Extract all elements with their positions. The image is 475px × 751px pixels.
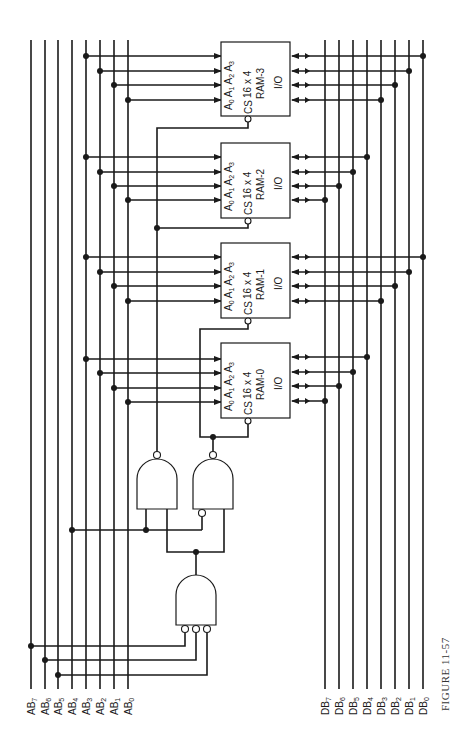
svg-text:I/O: I/O <box>273 276 284 290</box>
svg-text:CS: CS <box>243 201 254 215</box>
svg-text:RAM-2: RAM-2 <box>255 168 266 200</box>
svg-text:AB0: AB0 <box>123 698 135 715</box>
svg-text:AB1: AB1 <box>109 698 121 715</box>
svg-text:DB1: DB1 <box>404 697 416 715</box>
figure-caption: FIGURE 11-57 <box>439 637 451 711</box>
svg-text:I/O: I/O <box>273 376 284 390</box>
svg-text:16 x 4: 16 x 4 <box>242 271 253 299</box>
memory-decoder-diagram: AB7 AB6 AB5 AB4 AB3 AB2 AB1 AB0 DB7 DB6 … <box>0 0 475 751</box>
svg-text:DB7: DB7 <box>320 697 332 715</box>
address-bus-labels: AB7 AB6 AB5 AB4 AB3 AB2 AB1 AB0 <box>26 698 135 715</box>
svg-text:CS: CS <box>243 401 254 415</box>
svg-text:CS: CS <box>243 301 254 315</box>
ram-2-labels: A0 A1 A2 A3 CS 16 x 4 RAM-2 I/O <box>223 162 284 215</box>
svg-text:DB0: DB0 <box>418 697 430 715</box>
svg-text:AB2: AB2 <box>95 698 107 715</box>
svg-text:DB3: DB3 <box>376 697 388 715</box>
svg-text:16 x 4: 16 x 4 <box>242 371 253 399</box>
svg-text:A0 A1 A2 A3: A0 A1 A2 A3 <box>223 61 235 110</box>
svg-text:DB4: DB4 <box>362 697 374 715</box>
labels-layer: AB7 AB6 AB5 AB4 AB3 AB2 AB1 AB0 DB7 DB6 … <box>0 0 475 751</box>
svg-text:A0 A1 A2 A3: A0 A1 A2 A3 <box>223 362 235 411</box>
svg-text:AB7: AB7 <box>26 698 38 715</box>
svg-text:AB3: AB3 <box>81 698 93 715</box>
svg-text:AB6: AB6 <box>40 698 52 715</box>
svg-text:AB5: AB5 <box>53 698 65 715</box>
svg-text:A0 A1 A2 A3: A0 A1 A2 A3 <box>223 262 235 311</box>
svg-text:I/O: I/O <box>273 176 284 190</box>
ram-0-labels: A0 A1 A2 A3 CS 16 x 4 RAM-0 I/O <box>223 362 284 415</box>
svg-text:CS: CS <box>243 100 254 114</box>
svg-text:A0 A1 A2 A3: A0 A1 A2 A3 <box>223 162 235 211</box>
svg-text:DB2: DB2 <box>390 697 402 715</box>
svg-text:RAM-1: RAM-1 <box>255 268 266 300</box>
svg-text:AB4: AB4 <box>67 698 79 715</box>
svg-text:DB5: DB5 <box>348 697 360 715</box>
data-bus-labels: DB7 DB6 DB5 DB4 DB3 DB2 DB1 DB0 <box>320 697 430 715</box>
svg-text:16 x 4: 16 x 4 <box>242 171 253 199</box>
svg-text:RAM-0: RAM-0 <box>255 368 266 400</box>
svg-text:I/O: I/O <box>273 75 284 89</box>
svg-text:16 x 4: 16 x 4 <box>242 70 253 98</box>
svg-text:RAM-3: RAM-3 <box>255 67 266 99</box>
ram-1-labels: A0 A1 A2 A3 CS 16 x 4 RAM-1 I/O <box>223 262 284 315</box>
ram-3-labels: A0 A1 A2 A3 CS 16 x 4 RAM-3 I/O <box>223 61 284 114</box>
svg-text:DB6: DB6 <box>334 697 346 715</box>
